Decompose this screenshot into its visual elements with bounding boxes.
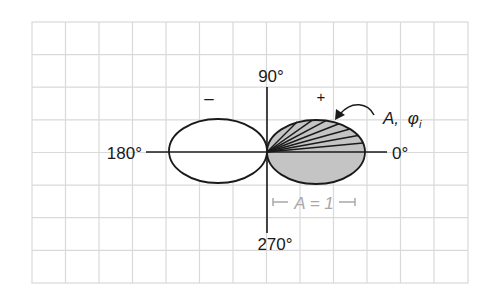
- amplitude-phase-label: A, φi: [382, 109, 422, 130]
- label-270-deg: 270°: [257, 235, 292, 254]
- label-180-deg: 180°: [107, 144, 142, 163]
- negative-sign: –: [204, 89, 214, 108]
- positive-sign: +: [317, 88, 326, 105]
- label-90-deg: 90°: [258, 67, 284, 86]
- left-lobe: [169, 119, 267, 183]
- scale-bar-label: A = 1: [293, 194, 334, 213]
- curved-arrow-icon: [335, 105, 374, 120]
- polar-pattern-diagram: 90° 180° 0° 270° – + A, φi A = 1: [0, 0, 489, 298]
- label-0-deg: 0°: [392, 144, 408, 163]
